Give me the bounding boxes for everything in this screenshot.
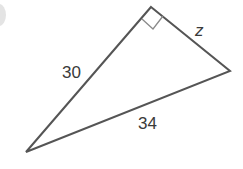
label-hypotenuse: 34 [138, 115, 157, 132]
right-angle-marker [142, 16, 163, 29]
label-leg-right: z [195, 22, 204, 39]
label-leg-left: 30 [62, 64, 81, 81]
triangle-diagram [0, 0, 243, 169]
